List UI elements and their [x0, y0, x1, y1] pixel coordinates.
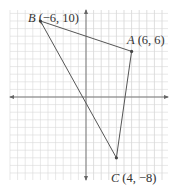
- label-c: C(4, −8): [111, 171, 156, 185]
- vertex-point-c: [115, 156, 118, 159]
- y-axis-down-arrow-icon: [84, 176, 88, 181]
- coordinate-plane: B(−6, 10) A(6, 6) C(4, −8): [0, 0, 178, 186]
- label-a: A(6, 6): [126, 33, 165, 47]
- y-axis-up-arrow-icon: [84, 9, 88, 14]
- vertex-labels: B(−6, 10) A(6, 6) C(4, −8): [28, 11, 165, 185]
- x-axis-right-arrow-icon: [164, 95, 169, 99]
- vertex-point-a: [130, 50, 133, 53]
